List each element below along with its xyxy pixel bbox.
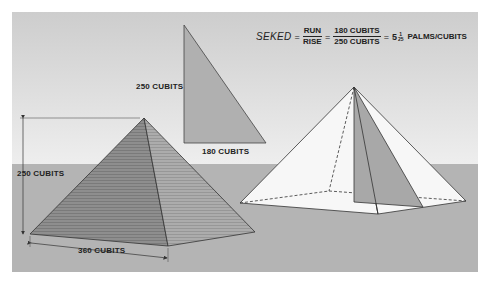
result-whole: 5 [392, 32, 397, 42]
result-unit: PALMS/CUBITS [407, 32, 466, 41]
result-mixed-number: 5 1 25 [392, 32, 404, 42]
result-frac-den: 25 [398, 37, 404, 42]
seked-formula: SEKED = RUN RISE = 180 CUBITS 250 CUBITS… [256, 26, 467, 47]
ratio-denominator: RISE [303, 37, 322, 47]
value-fraction: 180 CUBITS 250 CUBITS [333, 26, 380, 47]
value-numerator: 180 CUBITS [333, 26, 380, 37]
result-fraction: 1 25 [398, 32, 404, 42]
formula-term: SEKED [256, 31, 291, 42]
triangle-height-label: 250 CUBITS [136, 82, 183, 91]
ratio-numerator: RUN [303, 26, 322, 37]
pyramid-height-label: 250 CUBITS [17, 169, 64, 178]
formula-equals-3: = [384, 32, 389, 42]
formula-equals-2: = [325, 32, 330, 42]
triangle-base-label: 180 CUBITS [202, 147, 249, 156]
pyramid-base-label: 360 CUBITS [78, 246, 125, 255]
ratio-fraction: RUN RISE [303, 26, 322, 47]
formula-equals-1: = [294, 32, 299, 42]
value-denominator: 250 CUBITS [334, 37, 379, 47]
